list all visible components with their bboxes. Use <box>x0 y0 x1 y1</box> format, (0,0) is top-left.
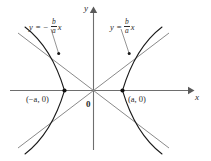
left-eq-sign: − <box>42 22 50 32</box>
origin-label: 0 <box>86 100 91 109</box>
right-eq-numerator: b <box>124 18 130 26</box>
right-vertex-dot <box>120 88 124 92</box>
left-eq-fraction: b a <box>51 18 57 35</box>
hyperbola-figure: y x 0 (−a, 0) (a, 0) y = − b a x y = b a… <box>0 0 211 161</box>
left-vertex-label: (−a, 0) <box>26 95 49 104</box>
x-axis-label: x <box>195 93 199 102</box>
left-label-leader-dot <box>57 52 60 55</box>
right-label-leader-dot <box>128 52 131 55</box>
right-asymptote-equation: y = b a x <box>110 18 136 35</box>
right-eq-equals: = <box>115 22 123 32</box>
right-eq-variable: x <box>131 22 136 32</box>
right-eq-fraction: b a <box>124 18 130 35</box>
left-eq-denominator: a <box>51 26 57 35</box>
left-asymptote-equation: y = − b a x <box>29 18 63 35</box>
y-axis-label: y <box>84 4 88 13</box>
right-eq-denominator: a <box>124 26 130 35</box>
left-eq-equals: = <box>34 22 42 32</box>
y-axis-arrowhead <box>90 7 97 14</box>
left-eq-numerator: b <box>51 18 57 26</box>
x-axis-arrowhead <box>188 87 195 94</box>
left-eq-variable: x <box>58 22 63 32</box>
right-vertex-label: (a, 0) <box>128 95 146 104</box>
left-vertex-dot <box>62 88 66 92</box>
